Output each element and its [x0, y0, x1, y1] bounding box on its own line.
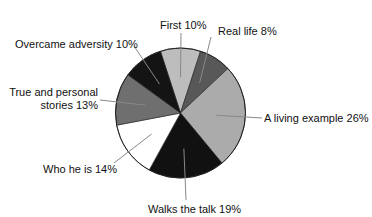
label-who-he-is: Who he is 14%: [43, 163, 117, 175]
label-real-life: Real life 8%: [218, 25, 277, 37]
label-first: First 10%: [160, 19, 207, 31]
label-walks-the-talk: Walks the talk 19%: [148, 203, 241, 215]
label-true-stories-line2: stories 13%: [41, 99, 99, 111]
pie-chart: First 10% Real life 8% A living example …: [0, 0, 372, 217]
label-true-stories-line1: True and personal: [9, 86, 98, 98]
leader-first: [181, 33, 182, 77]
label-overcame-adversity: Overcame adversity 10%: [15, 38, 138, 50]
label-living-example: A living example 26%: [264, 112, 369, 124]
